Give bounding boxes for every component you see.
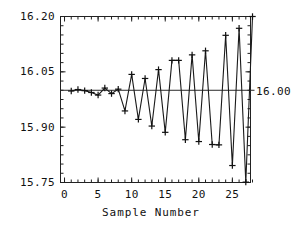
x-tick-label-15: 15 (150, 189, 180, 200)
x-tick-label-0: 0 (50, 189, 80, 200)
target-value-label: 16.00 (256, 85, 291, 98)
x-axis-title: Sample Number (0, 206, 302, 219)
y-tick-label-15-90: 15.90 (5, 122, 55, 133)
y-tick-label-16-05: 16.05 (5, 66, 55, 77)
x-tick-label-25: 25 (217, 189, 247, 200)
y-tick-label-16-20: 16.20 (5, 11, 55, 22)
x-tick-label-10: 10 (117, 189, 147, 200)
x-tick-label-20: 20 (184, 189, 214, 200)
chart-figure: 16.20 16.05 15.90 15.75 0 5 10 15 20 25 … (0, 0, 302, 231)
x-tick-label-5: 5 (83, 189, 113, 200)
y-tick-label-15-75: 15.75 (5, 177, 55, 188)
